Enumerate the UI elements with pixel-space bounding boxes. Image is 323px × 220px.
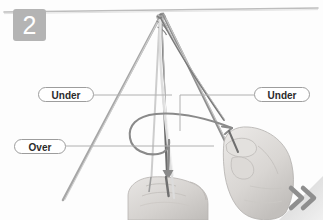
illustration-canvas: 2 Under Under Over [0,0,323,220]
callout-under-right: Under [254,87,310,102]
step-illustration [0,0,323,220]
step-number-badge: 2 [13,9,46,41]
callout-under-left: Under [38,87,94,102]
callout-over: Over [14,139,66,154]
